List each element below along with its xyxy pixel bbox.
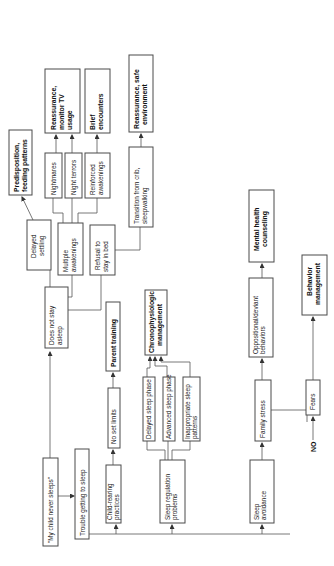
label: stay in bed xyxy=(102,241,110,272)
node-chronophysiologic-management: Chronophysiologic management xyxy=(145,290,167,355)
label: avoidance xyxy=(260,490,267,520)
node-sleep-regulation-problems: Sleep regulation problems xyxy=(160,460,185,523)
edge-inappropriate-to-chrono xyxy=(161,357,190,377)
node-multiple-awakenings: Multiple awakenings xyxy=(58,223,83,275)
label: awakenings xyxy=(70,238,78,272)
label: settling xyxy=(38,235,46,256)
label: Does not stay xyxy=(48,305,56,345)
label: No set limits xyxy=(110,409,117,444)
node-inappropriate-sleep-patterns: Inappropriate sleep patterns xyxy=(183,377,200,441)
label: monitor TV xyxy=(58,94,65,130)
edge-multi-to-nightmares xyxy=(53,198,63,223)
label: Delayed xyxy=(30,234,38,258)
node-reassurance-monitor-tv: Reassurance, monitor TV usage xyxy=(45,69,80,133)
label: Mental health xyxy=(253,208,260,251)
edge-dnsa-to-refusal xyxy=(68,275,101,310)
label: encounters xyxy=(97,93,104,130)
label: Delayed sleep phase xyxy=(145,379,153,439)
flowchart-canvas: "My child never sleeps" Trouble getting … xyxy=(0,0,334,566)
root-label: "My child never sleeps" xyxy=(47,477,55,543)
node-brief-encounters: Brief encounters xyxy=(85,69,110,133)
label: Fears xyxy=(309,394,316,410)
label: Reassurance, safe xyxy=(133,69,141,129)
label: practices xyxy=(113,494,121,520)
node-sleep-avoidance: Sleep avoidance xyxy=(250,460,274,523)
edge-family-to-no xyxy=(271,410,307,422)
node-night-terrors: Night terrors xyxy=(65,153,82,198)
label: Predisposition, xyxy=(13,143,21,192)
node-predisposition-feeding-patterns: Predisposition, feeding patterns xyxy=(9,130,32,195)
label: behaviors xyxy=(259,326,266,354)
node-behavior-management: Behavior management xyxy=(302,255,327,315)
node-transition-from-crib-sleepwalking: Transition from crib, sleepwalking xyxy=(129,147,153,227)
label: Chronophysiologic xyxy=(148,291,156,353)
node-delayed-sleep-phase: Delayed sleep phase xyxy=(143,377,155,441)
label: management xyxy=(314,262,322,305)
label: Reinforced xyxy=(89,164,96,195)
no-label: NO xyxy=(310,441,317,452)
label: Reassurance, xyxy=(50,86,58,130)
edge-settling-to-predisposition xyxy=(22,197,33,220)
node-reinforced-awakenings: Reinforced awakenings xyxy=(85,153,110,198)
label: Family stress xyxy=(259,400,267,438)
label: Transition from crib, xyxy=(133,168,140,224)
node-reassurance-safe-environment: Reassurance, safe environment xyxy=(129,55,153,132)
label: Parent training xyxy=(110,319,118,367)
node-oppositional-deviant-behaviors: Oppositional/deviant behaviors xyxy=(249,278,273,357)
node-advanced-sleep-phase: Advanced sleep phase xyxy=(163,374,175,441)
node-refusal-to-stay-in-bed: Refusal to stay in bed xyxy=(90,225,115,275)
node-fears: Fears xyxy=(306,380,320,415)
label: Night terrors xyxy=(70,160,78,195)
label: Nightmares xyxy=(50,162,58,195)
label: Multiple xyxy=(62,250,70,272)
label: feeding patterns xyxy=(21,139,29,192)
node-mental-health-counseling: Mental health counseling xyxy=(249,190,274,262)
label: patterns xyxy=(191,416,199,439)
label: problems xyxy=(171,494,179,520)
label: Refusal to xyxy=(94,241,101,270)
label: Brief xyxy=(89,114,96,130)
node-no-set-limits: No set limits xyxy=(108,388,120,448)
node-child-rearing-practices: Child-rearing practices xyxy=(106,465,121,523)
label: sleepwalking xyxy=(141,187,149,224)
edge-sr-to-delayed xyxy=(147,441,165,460)
label: Trouble getting to sleep xyxy=(79,469,87,536)
node-family-stress: Family stress xyxy=(255,380,271,441)
node-parent-training: Parent training xyxy=(106,302,120,371)
label: environment xyxy=(141,83,148,125)
edge-sr-to-inappropriate xyxy=(172,441,190,460)
edge-delayed-to-chrono xyxy=(147,357,150,377)
node-nightmares: Nightmares xyxy=(45,153,62,198)
label: asleep xyxy=(56,326,64,345)
node-trouble-getting-to-sleep: Trouble getting to sleep xyxy=(75,449,89,539)
label: Advanced sleep phase xyxy=(165,374,173,439)
edge-multi-to-reinforced xyxy=(78,198,97,223)
node-root: "My child never sleeps" xyxy=(43,458,58,546)
node-delayed-settling: Delayed settling xyxy=(27,220,51,270)
node-does-not-stay-asleep: Does not stay asleep xyxy=(45,287,68,348)
label: awakenings xyxy=(97,161,105,195)
label: usage xyxy=(66,110,74,130)
label: counseling xyxy=(261,211,269,247)
label: Behavior xyxy=(306,267,313,296)
label: management xyxy=(156,303,164,346)
